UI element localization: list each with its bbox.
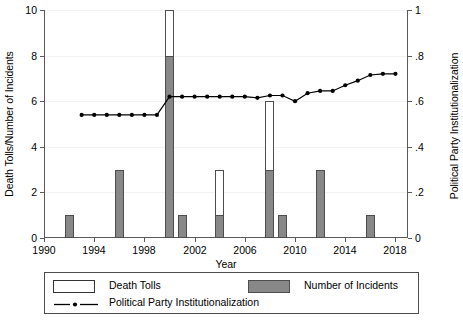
legend-swatch-incidents — [248, 280, 290, 293]
legend-label-ppi: Political Party Institutionalization — [109, 296, 259, 309]
ppi-data-point — [243, 95, 247, 99]
x-tick — [195, 238, 196, 242]
line-series-ppi — [44, 10, 408, 238]
ppi-data-point — [381, 72, 385, 76]
chart-figure: Death Tolls/Number of Incidents Politica… — [0, 0, 463, 320]
ppi-data-point — [117, 113, 121, 117]
y-axis-right-title: Political Party Institutionalization — [447, 10, 461, 242]
ppi-data-point — [356, 79, 360, 83]
legend-label-incidents: Number of Incidents — [304, 279, 398, 292]
ppi-data-point — [205, 95, 209, 99]
y-tick-right — [408, 147, 412, 148]
y-tick-label-right: .6 — [415, 96, 445, 106]
y-tick-label-right: .2 — [415, 187, 445, 197]
ppi-data-point — [268, 93, 272, 97]
ppi-data-point — [255, 96, 259, 100]
y-tick-label-right: .4 — [415, 142, 445, 152]
ppi-data-point — [218, 95, 222, 99]
x-tick-label: 1998 — [124, 244, 164, 256]
ppi-data-point — [280, 93, 284, 97]
legend-swatch-ppi-line — [53, 297, 99, 310]
y-tick-right — [408, 101, 412, 102]
ppi-data-point — [318, 89, 322, 93]
x-tick-label: 2010 — [275, 244, 315, 256]
x-tick — [395, 238, 396, 242]
ppi-data-point — [180, 95, 184, 99]
plot-area: 02468100.2.4.6.8119901994199820022006201… — [44, 10, 408, 237]
ppi-data-point — [142, 113, 146, 117]
ppi-data-point — [230, 95, 234, 99]
y-axis-left-title: Death Tolls/Number of Incidents — [2, 10, 16, 238]
x-tick — [295, 238, 296, 242]
y-tick-right — [408, 10, 412, 11]
x-tick — [94, 238, 95, 242]
y-tick-label-left: 4 — [7, 142, 37, 152]
ppi-data-point — [293, 99, 297, 103]
x-tick-label: 1994 — [74, 244, 114, 256]
x-tick-label: 2006 — [225, 244, 265, 256]
ppi-data-point — [167, 95, 171, 99]
ppi-data-point — [193, 95, 197, 99]
y-tick-label-left: 10 — [7, 5, 37, 15]
x-tick — [144, 238, 145, 242]
y-tick-label-left: 2 — [7, 187, 37, 197]
ppi-data-point — [80, 113, 84, 117]
y-tick-label-right: 0 — [415, 233, 445, 243]
ppi-data-point — [331, 89, 335, 93]
y-tick-label-right: .8 — [415, 51, 445, 61]
ppi-data-point — [343, 83, 347, 87]
ppi-data-point — [155, 113, 159, 117]
y-tick-right — [408, 238, 412, 239]
legend-label-death-tolls: Death Tolls — [109, 279, 161, 292]
chart-legend: Death Tolls Number of Incidents Politica… — [44, 272, 419, 314]
ppi-line-path — [82, 74, 396, 115]
y-tick-label-left: 6 — [7, 96, 37, 106]
x-tick-label: 2002 — [175, 244, 215, 256]
ppi-data-point — [368, 73, 372, 77]
y-tick-right — [408, 56, 412, 57]
x-tick — [44, 238, 45, 242]
ppi-data-point — [92, 113, 96, 117]
x-tick — [345, 238, 346, 242]
ppi-data-point — [393, 72, 397, 76]
ppi-data-point — [105, 113, 109, 117]
x-tick — [245, 238, 246, 242]
y-tick-label-left: 8 — [7, 51, 37, 61]
x-tick-label: 2014 — [325, 244, 365, 256]
x-tick-label: 2018 — [375, 244, 415, 256]
y-tick-label-left: 0 — [7, 233, 37, 243]
ppi-data-point — [305, 91, 309, 95]
y-tick-right — [408, 192, 412, 193]
x-tick-label: 1990 — [24, 244, 64, 256]
legend-swatch-death-tolls — [53, 280, 95, 293]
y-tick-label-right: 1 — [415, 5, 445, 15]
ppi-data-point — [130, 113, 134, 117]
line-marker-icon — [53, 298, 99, 311]
x-axis-title: Year — [44, 258, 408, 270]
